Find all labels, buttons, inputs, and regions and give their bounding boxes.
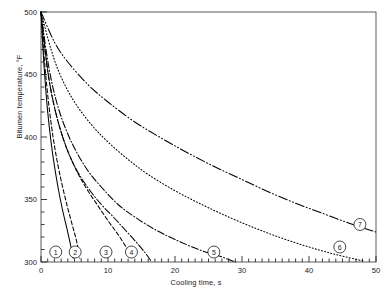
x-axis-title: Cooling time, s <box>0 278 392 287</box>
series-marker-5: 5 <box>208 246 220 258</box>
series-marker-label: 7 <box>358 221 362 228</box>
curve-3 <box>41 12 132 258</box>
x-tick-label: 20 <box>171 266 179 275</box>
series-number-markers: 1234567 <box>50 219 366 259</box>
y-tick-label: 400 <box>24 133 37 142</box>
y-tick-label: 450 <box>24 70 37 79</box>
x-tick-label: 0 <box>39 266 43 275</box>
plot-frame <box>41 12 376 262</box>
curve-2 <box>41 12 80 258</box>
series-marker-label: 4 <box>129 249 133 256</box>
curve-7 <box>41 12 376 232</box>
x-tick-label: 40 <box>305 266 313 275</box>
y-axis-title: Bitumen temperature, °F <box>15 32 24 162</box>
x-tick-label: 30 <box>238 266 246 275</box>
curve-4 <box>41 12 151 261</box>
series-marker-label: 2 <box>73 249 77 256</box>
y-tick-label: 350 <box>24 195 37 204</box>
series-marker-label: 1 <box>54 249 58 256</box>
x-tick-label: 10 <box>104 266 112 275</box>
y-tick-label: 300 <box>24 258 37 267</box>
x-tick-label: 50 <box>372 266 380 275</box>
x-axis-ticks: 01020304050 <box>39 256 380 275</box>
series-marker-2: 2 <box>69 246 81 258</box>
series-marker-1: 1 <box>50 246 62 258</box>
chart-canvas: 01020304050 300350400450500 1234567 <box>0 0 392 293</box>
curve-5 <box>41 12 235 262</box>
series-marker-4: 4 <box>125 246 137 258</box>
series-marker-label: 6 <box>338 244 342 251</box>
series-marker-label: 5 <box>212 249 216 256</box>
series-marker-label: 3 <box>104 249 108 256</box>
curve-6 <box>41 12 363 261</box>
series-marker-6: 6 <box>334 241 346 253</box>
series-marker-7: 7 <box>354 219 366 231</box>
data-curves <box>41 12 376 262</box>
series-marker-3: 3 <box>100 246 112 258</box>
chart-figure: 01020304050 300350400450500 1234567 Bitu… <box>0 0 392 293</box>
y-tick-label: 500 <box>24 8 37 17</box>
